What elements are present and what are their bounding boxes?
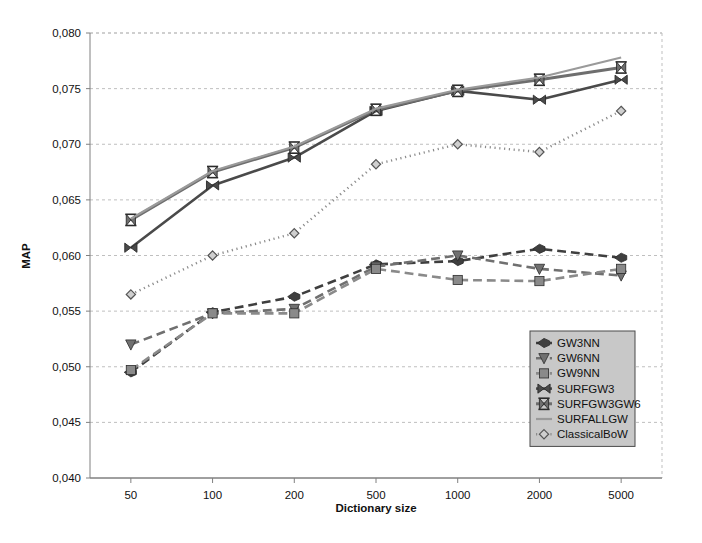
- y-tick-label-1: 0,045: [52, 416, 81, 428]
- y-tick-label-8: 0,080: [52, 27, 81, 39]
- legend-label-GW3NN: GW3NN: [557, 337, 600, 349]
- chart-container: 0,0400,0450,0500,0550,0600,0650,0700,075…: [0, 0, 702, 543]
- legend-marker-GW9NN: [539, 369, 548, 378]
- legend-label-ClassicalBoW: ClassicalBoW: [557, 428, 628, 440]
- x-tick-label-5: 2000: [527, 489, 553, 501]
- x-tick-label-6: 5000: [608, 489, 634, 501]
- data-point-GW9NN-1: [208, 309, 217, 318]
- y-tick-label-4: 0,060: [52, 250, 81, 262]
- data-point-GW9NN-5: [535, 276, 544, 285]
- data-point-GW9NN-2: [290, 309, 299, 318]
- legend-label-SURFGW3: SURFGW3: [557, 383, 615, 395]
- legend-item-GW3NN[interactable]: GW3NN: [536, 337, 600, 349]
- data-point-GW9NN-4: [453, 275, 462, 284]
- y-tick-label-3: 0,055: [52, 305, 81, 317]
- y-tick-label-2: 0,050: [52, 361, 81, 373]
- x-tick-label-0: 50: [124, 489, 137, 501]
- legend-label-SURFGW3GW6: SURFGW3GW6: [557, 398, 641, 410]
- legend-label-SURFALLGW: SURFALLGW: [557, 413, 628, 425]
- x-tick-label-1: 100: [203, 489, 222, 501]
- y-tick-label-7: 0,075: [52, 83, 81, 95]
- y-tick-label-0: 0,040: [52, 472, 81, 484]
- data-point-GW9NN-3: [371, 264, 380, 273]
- x-axis-title: Dictionary size: [335, 502, 416, 514]
- y-tick-label-5: 0,065: [52, 194, 81, 206]
- data-point-GW9NN-6: [617, 264, 626, 273]
- x-tick-label-2: 200: [285, 489, 304, 501]
- y-tick-label-6: 0,070: [52, 138, 81, 150]
- x-tick-label-4: 1000: [445, 489, 471, 501]
- map-vs-dictionary-size-line-chart: 0,0400,0450,0500,0550,0600,0650,0700,075…: [0, 0, 702, 543]
- data-point-GW9NN-0: [126, 365, 135, 374]
- chart-legend[interactable]: GW3NNGW6NNGW9NNSURFGW3SURFGW3GW6SURFALLG…: [530, 331, 641, 446]
- legend-label-GW6NN: GW6NN: [557, 352, 600, 364]
- legend-item-GW9NN[interactable]: GW9NN: [536, 367, 600, 379]
- x-tick-label-3: 500: [366, 489, 385, 501]
- y-axis-title: MAP: [20, 243, 32, 269]
- legend-label-GW9NN: GW9NN: [557, 367, 600, 379]
